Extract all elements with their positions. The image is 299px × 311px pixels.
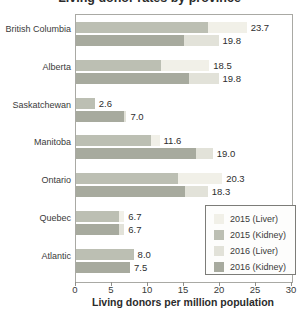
bar-2016 [76,262,130,273]
chart-container: Living donor rates by province 23.719.81… [0,0,299,311]
segment-liver-2015 [178,173,222,184]
value-label: 7.0 [130,111,143,122]
segment-kidney-2016 [76,262,130,273]
bar-2015 [76,211,124,222]
value-label: 6.7 [128,211,141,222]
x-tick-label: 20 [204,284,234,295]
bar-2015 [76,22,247,33]
legend-item: 2016 (Kidney) [214,259,295,275]
province-label: Alberta [0,61,71,74]
legend-swatch [214,246,224,256]
province-label: Saskatchewan [0,99,71,112]
x-tick-label: 5 [96,284,126,295]
segment-liver-2015 [208,22,246,33]
province-label: Atlantic [0,250,71,263]
legend-label: 2016 (Liver) [230,246,278,256]
bar-2015 [76,249,134,260]
segment-kidney-2016 [76,111,124,122]
segment-liver-2016 [124,111,127,122]
x-tick-label: 30 [276,284,299,295]
legend-label: 2016 (Kidney) [230,262,286,272]
segment-liver-2016 [119,224,124,235]
x-tick-label: 15 [168,284,198,295]
value-label: 8.0 [138,249,151,260]
value-label: 18.3 [212,186,231,197]
legend-item: 2016 (Liver) [214,243,295,259]
segment-liver-2015 [119,211,124,222]
x-tick-label: 0 [60,284,90,295]
province-label: Ontario [0,174,71,187]
value-label: 19.0 [217,148,236,159]
province-label: British Columbia [0,23,71,36]
bar-2016 [76,186,208,197]
bar-2016 [76,224,124,235]
value-label: 23.7 [251,22,270,33]
segment-kidney-2016 [76,35,184,46]
segment-liver-2016 [189,73,219,84]
legend-swatch [214,214,224,224]
legend-item: 2015 (Kidney) [214,227,295,243]
segment-kidney-2016 [76,186,185,197]
segment-kidney-2016 [76,73,189,84]
value-label: 11.6 [164,135,182,146]
segment-kidney-2015 [76,60,161,71]
segment-kidney-2015 [76,135,151,146]
value-label: 19.8 [223,73,242,84]
legend-swatch [214,230,224,240]
value-label: 19.8 [223,35,242,46]
value-label: 18.5 [213,60,232,71]
segment-liver-2015 [161,60,209,71]
bar-2015 [76,98,95,109]
bar-2016 [76,111,126,122]
bar-2015 [76,135,160,146]
bar-2016 [76,73,219,84]
value-label: 20.3 [226,173,245,184]
segment-kidney-2015 [76,98,95,109]
legend-swatch [214,262,224,272]
value-label: 7.5 [134,262,147,273]
segment-kidney-2015 [76,22,208,33]
segment-liver-2015 [151,135,160,146]
x-tick-label: 10 [132,284,162,295]
legend: 2015 (Liver)2015 (Kidney)2016 (Liver)201… [205,205,296,275]
segment-kidney-2015 [76,249,134,260]
segment-kidney-2016 [76,224,119,235]
province-label: Manitoba [0,136,71,149]
bar-2016 [76,148,213,159]
chart-title: Living donor rates by province [0,0,299,5]
legend-item: 2015 (Liver) [214,211,295,227]
bar-2015 [76,173,222,184]
segment-liver-2016 [196,148,213,159]
legend-label: 2015 (Kidney) [230,230,286,240]
x-axis-title: Living donors per million population [75,296,291,308]
value-label: 2.6 [99,98,112,109]
bar-2015 [76,60,209,71]
value-label: 6.7 [128,224,141,235]
bar-2016 [76,35,219,46]
segment-liver-2016 [184,35,219,46]
segment-kidney-2015 [76,211,119,222]
x-tick-label: 25 [240,284,270,295]
segment-kidney-2016 [76,148,196,159]
legend-label: 2015 (Liver) [230,214,278,224]
province-label: Quebec [0,212,71,225]
segment-liver-2016 [185,186,207,197]
segment-kidney-2015 [76,173,178,184]
